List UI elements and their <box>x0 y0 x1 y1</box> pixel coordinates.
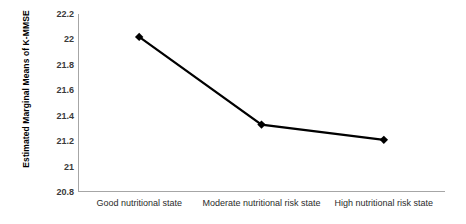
y-axis-tick-labels: 22.22221.821.621.421.22120.8 <box>34 0 74 224</box>
y-axis-tick-label: 22.2 <box>34 9 74 19</box>
y-axis-tick-label: 21 <box>34 162 74 172</box>
y-axis-tick-label: 21.2 <box>34 136 74 146</box>
x-axis-tick-labels: Good nutritional stateModerate nutrition… <box>78 198 445 218</box>
y-axis-tick-label: 22 <box>34 34 74 44</box>
plot-area <box>78 14 445 192</box>
y-axis-tick-label: 20.8 <box>34 187 74 197</box>
x-axis-category-label: Good nutritional state <box>96 198 182 208</box>
y-axis-tick-label: 21.6 <box>34 85 74 95</box>
y-axis-title: Estimated Marginal Means of K-MMSE <box>21 0 31 179</box>
y-axis-tick-label: 21.4 <box>34 111 74 121</box>
chart-container: Estimated Marginal Means of K-MMSE 22.22… <box>0 0 466 224</box>
x-axis-category-label: Moderate nutritional risk state <box>202 198 320 208</box>
x-axis-category-label: High nutritional risk state <box>335 198 434 208</box>
data-point-marker <box>380 136 388 144</box>
y-axis-tick-label: 21.8 <box>34 60 74 70</box>
data-series-line <box>78 14 445 192</box>
